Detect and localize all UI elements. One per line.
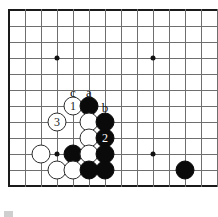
corner-artifact-mark — [4, 211, 13, 217]
stone-black — [96, 161, 115, 180]
move-number: 2 — [102, 132, 108, 144]
star-point — [55, 56, 60, 61]
grid-line-vertical — [25, 9, 26, 187]
stone-white — [32, 145, 51, 164]
grid-line-vertical — [137, 9, 138, 187]
grid-line-vertical — [217, 9, 218, 187]
point-label-a: a — [86, 86, 92, 99]
grid-line-vertical — [201, 9, 202, 187]
grid-line-vertical — [153, 9, 154, 187]
point-label-c: c — [70, 86, 76, 99]
grid-line-vertical — [121, 9, 122, 187]
star-point — [151, 152, 156, 157]
stone-white-move-3: 3 — [48, 113, 67, 132]
grid-line-vertical — [8, 9, 10, 187]
grid-line-vertical — [169, 9, 170, 187]
point-label-b: b — [102, 101, 109, 114]
move-number: 3 — [54, 116, 60, 128]
star-point — [55, 152, 60, 157]
move-number: 1 — [70, 100, 76, 112]
go-board-diagram: 132 cab — [0, 0, 218, 217]
stone-black — [176, 161, 195, 180]
star-point — [151, 56, 156, 61]
